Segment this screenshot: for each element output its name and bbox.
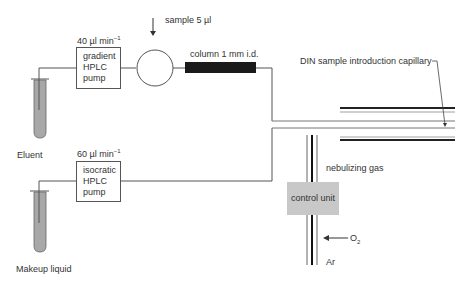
isocratic-flow-value: 60 µl min (77, 149, 114, 159)
column (185, 62, 256, 73)
eluent-tube (31, 68, 76, 138)
o2-label: O2 (350, 233, 360, 248)
gradient-pump-line-3: pump (83, 73, 120, 84)
gradient-flow-value: 40 µl min (77, 36, 114, 46)
gradient-pump-box: gradient HPLC pump (76, 47, 121, 89)
column-label: column 1 mm i.d. (190, 49, 259, 60)
o2-text: O (350, 233, 357, 243)
diagram-canvas (0, 0, 472, 281)
ar-label: Ar (326, 257, 335, 268)
makeup-tube (30, 181, 76, 252)
eluent-label: Eluent (17, 150, 43, 161)
isocratic-pump-line-1: isocratic (83, 165, 120, 176)
control-unit-box: control unit (287, 182, 339, 215)
isocratic-flow-label: 60 µl min−1 (77, 146, 121, 160)
gradient-pump-line-2: HPLC (83, 62, 120, 73)
capillary-label: DIN sample introduction capillary (300, 56, 432, 67)
gradient-flow-exp: −1 (114, 35, 121, 41)
nebulizing-gas-label: nebulizing gas (326, 163, 384, 174)
makeup-liquid-label: Makeup liquid (16, 264, 72, 275)
o2-subscript: 2 (357, 239, 360, 245)
gradient-flow-label: 40 µl min−1 (77, 33, 121, 47)
sample-label: sample 5 µl (165, 15, 211, 26)
gradient-pump-line-1: gradient (83, 51, 120, 62)
isocratic-pump-line-2: HPLC (83, 176, 120, 187)
isocratic-pump-box: isocratic HPLC pump (76, 161, 121, 202)
isocratic-pump-line-3: pump (83, 187, 120, 198)
injection-valve (137, 50, 173, 86)
isocratic-flow-exp: −1 (114, 148, 121, 154)
